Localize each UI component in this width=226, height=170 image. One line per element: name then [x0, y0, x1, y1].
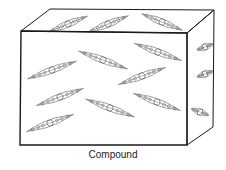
molecule-front — [78, 48, 129, 71]
molecules — [25, 11, 214, 134]
molecule-top — [140, 11, 183, 33]
molecule-side — [190, 106, 210, 118]
molecule-front — [85, 96, 136, 119]
molecule-front — [27, 58, 78, 81]
compound-label: Compound — [0, 149, 226, 160]
molecule-side — [196, 68, 215, 80]
molecule-front — [35, 86, 84, 109]
compound-crystal-diagram — [0, 0, 226, 170]
molecule-side — [196, 41, 215, 53]
molecule-front — [133, 41, 182, 64]
molecule-front — [132, 91, 181, 114]
molecule-front — [25, 112, 74, 135]
